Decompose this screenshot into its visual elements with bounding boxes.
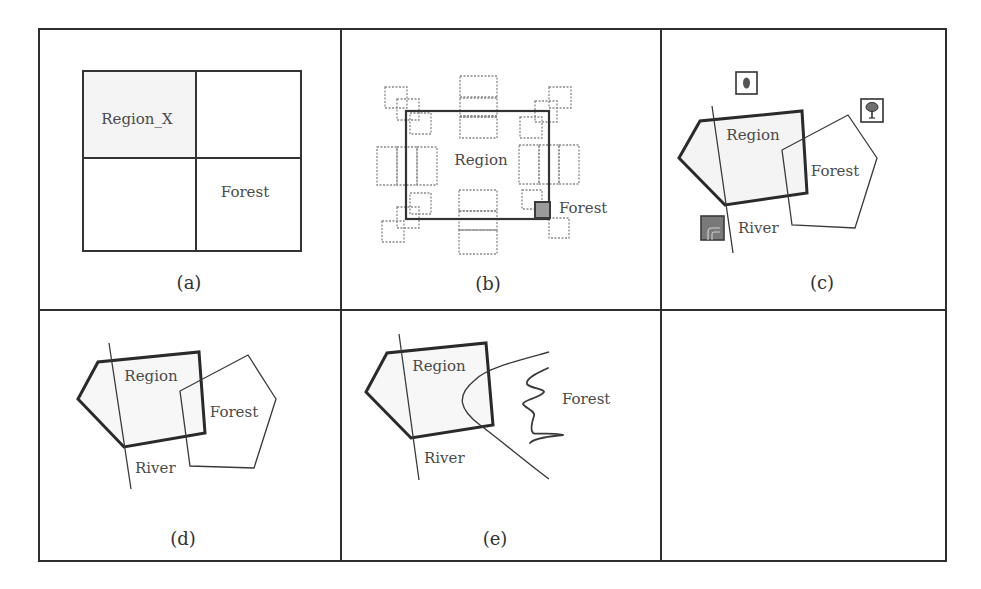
- region-label: Region: [412, 357, 466, 375]
- panel-caption: (e): [483, 528, 508, 549]
- panel-e: Region Forest River (e): [366, 334, 610, 549]
- forest-zigzag-boundary: [523, 368, 563, 443]
- river-label: River: [424, 449, 465, 467]
- panel-caption: (b): [475, 273, 501, 294]
- panel-caption: (a): [177, 272, 202, 293]
- forest-label: Forest: [811, 162, 859, 180]
- panel-d: Region Forest River (d): [78, 343, 276, 549]
- oval-symbol-icon: [736, 72, 757, 94]
- panel-b: Region Forest (b): [377, 76, 607, 294]
- forest-label: Forest: [559, 199, 607, 217]
- region-x-label: Region_X: [101, 110, 173, 128]
- panel-caption: (d): [170, 528, 196, 549]
- forest-label: Forest: [221, 183, 269, 201]
- region-label: Region: [124, 367, 178, 385]
- forest-square: [535, 202, 550, 218]
- region-label: Region: [726, 126, 780, 144]
- forest-label: Forest: [562, 390, 610, 408]
- panel-c: Region Forest River (c): [679, 72, 883, 293]
- forest-label: Forest: [210, 403, 258, 421]
- region-label: Region: [454, 151, 508, 169]
- river-label: River: [135, 459, 176, 477]
- river-symbol-icon: [701, 216, 724, 240]
- panel-caption: (c): [810, 272, 834, 293]
- panel-a: Region_X Forest (a): [83, 71, 301, 293]
- figure-canvas: Region_X Forest (a): [0, 0, 981, 589]
- tree-icon: [861, 99, 883, 122]
- river-label: River: [738, 219, 779, 237]
